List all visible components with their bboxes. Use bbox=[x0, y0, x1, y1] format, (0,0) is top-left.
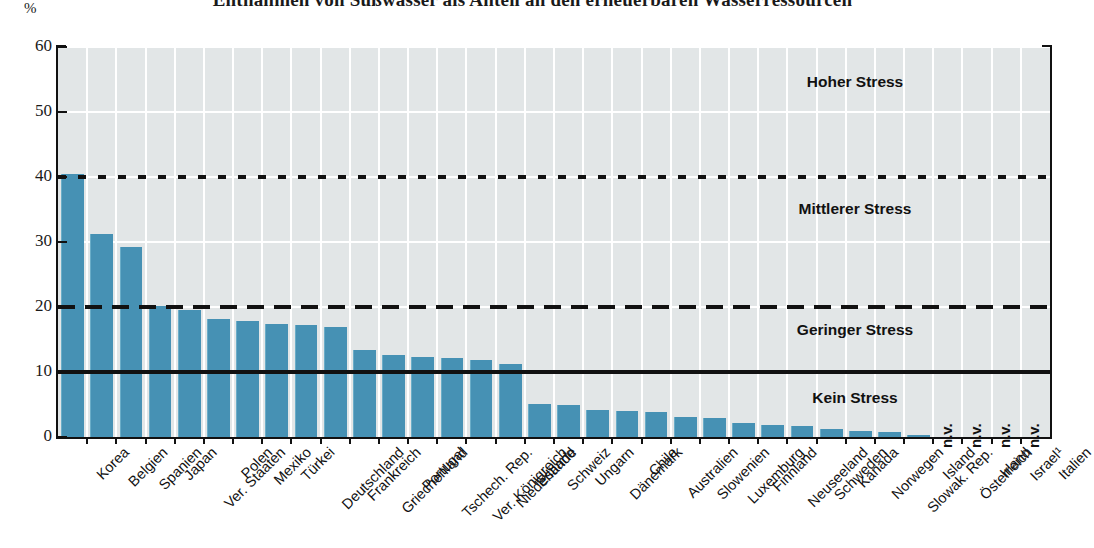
x-axis-category-label: Israel¹ bbox=[1027, 444, 1067, 484]
zone-label: Kein Stress bbox=[812, 389, 897, 407]
y-axis-tick bbox=[58, 306, 67, 308]
bar bbox=[761, 425, 784, 437]
vertical-gridline bbox=[641, 47, 643, 437]
x-axis-tick bbox=[553, 437, 555, 444]
x-axis-tick bbox=[145, 437, 147, 444]
x-axis-category-label: Niederlande bbox=[513, 444, 580, 511]
x-axis-category-label: Deutschland bbox=[339, 444, 407, 512]
y-axis-tick bbox=[58, 436, 67, 438]
x-axis-category-label: Schweiz bbox=[564, 444, 613, 493]
vertical-gridline bbox=[670, 47, 672, 437]
x-axis-category-label: Estland bbox=[533, 444, 579, 490]
x-axis-category-label: Schweden bbox=[831, 444, 890, 503]
vertical-gridline bbox=[991, 47, 993, 437]
x-axis-tick bbox=[786, 437, 788, 444]
bar bbox=[732, 423, 755, 437]
x-axis-tick bbox=[407, 437, 409, 444]
x-axis-tick bbox=[582, 437, 584, 444]
y-axis-tick-label: 10 bbox=[6, 361, 52, 381]
hoher-stress-threshold bbox=[58, 175, 1050, 179]
x-axis-category-label: Finnland bbox=[769, 444, 820, 495]
y-axis-tick-label: 30 bbox=[6, 231, 52, 251]
chart-title: Entnahmen von Süßwasser als Anteil an de… bbox=[0, 0, 1065, 11]
vertical-gridline bbox=[1020, 47, 1022, 437]
x-axis-tick bbox=[524, 437, 526, 444]
vertical-gridline bbox=[495, 47, 497, 437]
x-axis-tick bbox=[816, 437, 818, 444]
geringer-stress-threshold bbox=[58, 370, 1050, 374]
vertical-gridline bbox=[174, 47, 176, 437]
vertical-gridline bbox=[611, 47, 613, 437]
vertical-gridline bbox=[699, 47, 701, 437]
x-axis-tick bbox=[232, 437, 234, 444]
x-axis-tick bbox=[903, 437, 905, 444]
bar bbox=[353, 350, 376, 437]
vertical-gridline bbox=[290, 47, 292, 437]
x-axis-category-label: Slowenien bbox=[714, 444, 773, 503]
axis-top-right-tick bbox=[1042, 45, 1052, 47]
vertical-gridline bbox=[232, 47, 234, 437]
y-axis-tick-label: 40 bbox=[6, 166, 52, 186]
x-axis-tick bbox=[465, 437, 467, 444]
vertical-gridline bbox=[378, 47, 380, 437]
y-axis-tick-label: 20 bbox=[6, 296, 52, 316]
vertical-gridline bbox=[203, 47, 205, 437]
x-axis-tick bbox=[290, 437, 292, 444]
y-axis-tick bbox=[58, 111, 67, 113]
vertical-gridline bbox=[932, 47, 934, 437]
x-axis-tick bbox=[757, 437, 759, 444]
bar bbox=[120, 247, 143, 437]
vertical-gridline bbox=[261, 47, 263, 437]
no-value-label: n.v. bbox=[967, 423, 984, 448]
x-axis-category-label: Neuseeland bbox=[804, 444, 870, 510]
y-axis-right-line bbox=[1050, 45, 1052, 439]
x-axis-tick bbox=[991, 437, 993, 444]
bar bbox=[90, 234, 113, 437]
bar bbox=[703, 418, 726, 438]
x-axis-category-label: Korea bbox=[93, 444, 132, 483]
no-value-label: n.v. bbox=[938, 423, 955, 448]
vertical-gridline bbox=[115, 47, 117, 437]
x-axis-category-label: Mexiko bbox=[270, 444, 314, 488]
y-axis-tick-label: 60 bbox=[6, 36, 52, 56]
y-axis-tick bbox=[58, 46, 67, 48]
x-axis-tick bbox=[728, 437, 730, 444]
bar bbox=[236, 321, 259, 437]
y-axis-tick-label: 50 bbox=[6, 101, 52, 121]
x-axis-category-label: Tschech. Rep. bbox=[459, 444, 535, 520]
plot-area: Hoher StressMittlerer StressGeringer Str… bbox=[58, 47, 1050, 437]
x-axis-tick bbox=[699, 437, 701, 444]
bar bbox=[324, 327, 347, 437]
vertical-gridline bbox=[786, 47, 788, 437]
x-axis-category-label: Australien bbox=[684, 444, 741, 501]
x-axis-tick bbox=[495, 437, 497, 444]
x-axis-tick bbox=[845, 437, 847, 444]
vertical-gridline bbox=[524, 47, 526, 437]
y-axis-tick bbox=[58, 241, 67, 243]
vertical-gridline bbox=[349, 47, 351, 437]
bar bbox=[586, 410, 609, 437]
vertical-gridline bbox=[145, 47, 147, 437]
x-axis-category-label: Belgien bbox=[125, 444, 171, 490]
x-axis-category-label: Türkei bbox=[298, 444, 338, 484]
x-axis-category-label: Irland bbox=[997, 444, 1034, 481]
vertical-gridline bbox=[903, 47, 905, 437]
bar bbox=[295, 325, 318, 437]
x-axis-category-label: Chile bbox=[646, 444, 681, 479]
x-axis-category-label: Ungarn bbox=[592, 444, 637, 489]
bar bbox=[820, 429, 843, 437]
x-axis-tick bbox=[349, 437, 351, 444]
x-axis-tick bbox=[436, 437, 438, 444]
vertical-gridline bbox=[845, 47, 847, 437]
vertical-gridline bbox=[320, 47, 322, 437]
vertical-gridline bbox=[407, 47, 409, 437]
x-axis-tick bbox=[874, 437, 876, 444]
x-axis-category-label: Norwegen bbox=[889, 444, 947, 502]
no-value-label: n.v. bbox=[996, 423, 1013, 448]
x-axis-category-label: Österreich bbox=[976, 444, 1035, 503]
x-axis-tick bbox=[115, 437, 117, 444]
vertical-gridline bbox=[86, 47, 88, 437]
x-axis-tick bbox=[86, 437, 88, 444]
no-value-label: n.v. bbox=[1025, 423, 1042, 448]
